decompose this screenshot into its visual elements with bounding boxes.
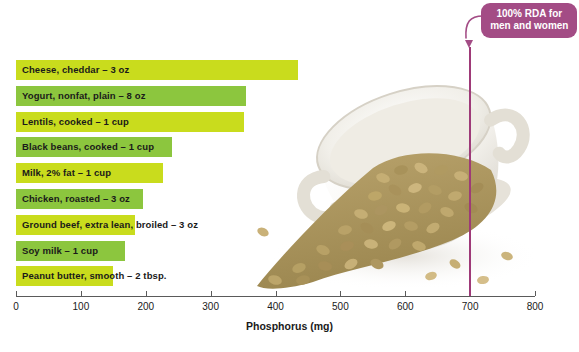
bar-row: Lentils, cooked – 1 cup <box>16 112 535 132</box>
bar-row: Cheese, cheddar – 3 oz <box>16 60 535 80</box>
bar-row: Chicken, roasted – 3 oz <box>16 189 535 209</box>
x-axis-tick <box>146 291 147 296</box>
bar-label: Milk, 2% fat – 1 cup <box>22 163 111 183</box>
bar-label: Soy milk – 1 cup <box>22 241 98 261</box>
bar-row: Milk, 2% fat – 1 cup <box>16 163 535 183</box>
x-axis-tick <box>405 291 406 296</box>
plot-area: Cheese, cheddar – 3 ozYogurt, nonfat, pl… <box>0 0 579 352</box>
x-axis-tick-label: 100 <box>73 301 90 312</box>
rda-callout-line-2: men and women <box>490 20 568 32</box>
x-axis-tick-label: 0 <box>13 301 19 312</box>
bar-row: Ground beef, extra lean, broiled – 3 oz <box>16 215 535 235</box>
x-axis-tick <box>211 291 212 296</box>
x-axis-tick-label: 700 <box>462 301 479 312</box>
phosphorus-bar-chart-figure: Cheese, cheddar – 3 ozYogurt, nonfat, pl… <box>0 0 579 352</box>
bar-label: Peanut butter, smooth – 2 tbsp. <box>22 266 167 286</box>
x-axis-tick <box>340 291 341 296</box>
bar-row: Soy milk – 1 cup <box>16 241 535 261</box>
x-axis-tick <box>535 291 536 296</box>
x-axis-tick <box>276 291 277 296</box>
x-axis-tick-label: 200 <box>137 301 154 312</box>
rda-arrow-icon <box>465 40 473 48</box>
x-axis-line <box>16 296 535 297</box>
x-axis-tick <box>16 291 17 296</box>
x-axis-title: Phosphorus (mg) <box>0 320 579 332</box>
bar-row: Black beans, cooked – 1 cup <box>16 137 535 157</box>
bar-label: Black beans, cooked – 1 cup <box>22 137 154 157</box>
x-axis-tick <box>81 291 82 296</box>
bar-row: Yogurt, nonfat, plain – 8 oz <box>16 86 535 106</box>
x-axis-tick-label: 600 <box>397 301 414 312</box>
x-axis-tick-label: 500 <box>332 301 349 312</box>
x-axis-tick-label: 300 <box>202 301 219 312</box>
bar-label: Yogurt, nonfat, plain – 8 oz <box>22 86 145 106</box>
x-axis-tick-label: 800 <box>527 301 544 312</box>
bar-row: Peanut butter, smooth – 2 tbsp. <box>16 266 535 286</box>
x-axis-tick-label: 400 <box>267 301 284 312</box>
bar-label: Chicken, roasted – 3 oz <box>22 189 130 209</box>
bar-label: Ground beef, extra lean, broiled – 3 oz <box>22 215 198 235</box>
rda-callout-box: 100% RDA for men and women <box>481 3 577 38</box>
bar-label: Lentils, cooked – 1 cup <box>22 112 129 132</box>
bar-label: Cheese, cheddar – 3 oz <box>22 60 129 80</box>
rda-callout-line-1: 100% RDA for <box>490 8 568 20</box>
rda-reference-line <box>469 47 471 296</box>
